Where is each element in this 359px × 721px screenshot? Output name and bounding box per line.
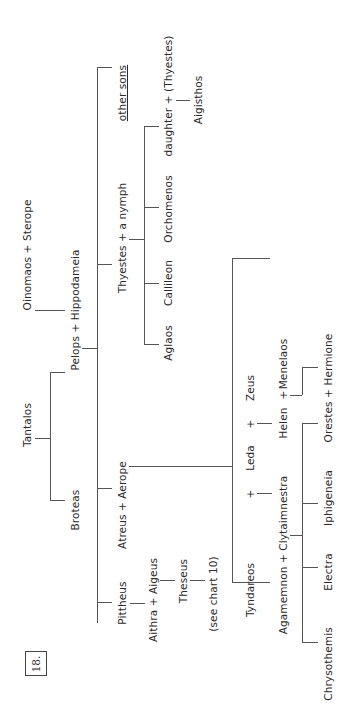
- person-iphigeneia: Iphigeneia: [322, 470, 334, 526]
- couple-daughter-thyestes: daughter + (Thyestes): [162, 36, 174, 157]
- person-leda: Leda: [244, 445, 256, 471]
- chart-number: 18.: [30, 655, 42, 672]
- couple-atreus-aerope: Atreus + Aerope: [116, 461, 128, 549]
- person-orchomenos: Orchomenos: [162, 175, 174, 242]
- person-broteas: Broteas: [69, 490, 81, 531]
- person-electra: Electra: [322, 553, 334, 590]
- person-menelaos: Menelaos: [277, 339, 289, 390]
- person-theseus: Theseus: [177, 559, 189, 603]
- person-chrysothemis: Chrysothemis: [322, 627, 334, 700]
- person-callileon: Callileon: [162, 260, 174, 306]
- other-sons: other sons: [116, 65, 128, 121]
- family-tree-chart: 18. Tantalos Oinomaos + Sterope Broteas …: [0, 0, 359, 721]
- couple-pelops-hippodameia: Pelops + Hippodameia: [69, 249, 81, 370]
- connector-lines: [0, 0, 359, 721]
- plus-sign: +: [244, 420, 256, 429]
- see-chart-reference: (see chart 10): [207, 556, 219, 631]
- couple-aithra-aigeus: Aithra + Aigeus: [147, 558, 159, 642]
- person-pittheus: Pittheus: [116, 581, 128, 624]
- plus-sign: +: [244, 490, 256, 499]
- plus-sign: +: [277, 391, 289, 400]
- person-tantalos: Tantalos: [21, 403, 33, 447]
- person-aglaos: Aglaos: [162, 325, 174, 361]
- person-helen: Helen: [277, 408, 289, 439]
- chart-number-box: 18.: [25, 651, 47, 676]
- couple-oinomaos-sterope: Oinomaos + Sterope: [21, 200, 33, 311]
- person-tyndareos: Tyndareos: [244, 563, 256, 617]
- couple-agamemnon-clytaimnestra: Agamemnon + Clytaimnestra: [277, 476, 289, 635]
- couple-orestes-hermione: Orestes + Hermione: [322, 334, 334, 443]
- person-aigisthos: Aigisthos: [192, 76, 204, 125]
- couple-thyestes-nymph: Thyestes + a nymph: [116, 183, 128, 294]
- person-zeus: Zeus: [244, 375, 256, 401]
